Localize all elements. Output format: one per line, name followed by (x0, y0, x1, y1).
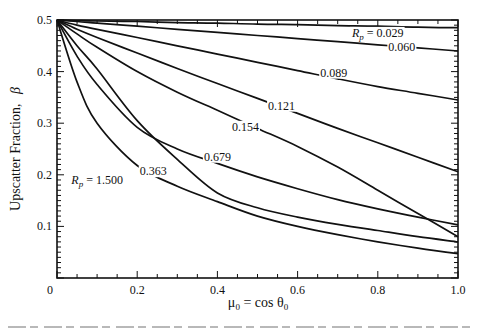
curve-rp-1-500 (57, 20, 458, 254)
y-tick-label: 0.1 (37, 219, 52, 233)
svg-text:0.060: 0.060 (388, 40, 415, 54)
x-tick-label: 0.2 (130, 283, 145, 297)
svg-text:0.154: 0.154 (232, 120, 259, 134)
x-axis-title: μ0 = cos θ0 (228, 295, 289, 312)
curve-label: Rp = 1.500 (69, 173, 124, 189)
y-axis-title: Upscatter Fraction, β (8, 87, 23, 211)
x-axis-title-eq: = cos θ (240, 295, 284, 310)
svg-text:0.121: 0.121 (268, 99, 295, 113)
curve-label: 0.060 (387, 40, 416, 54)
svg-text:0.089: 0.089 (320, 66, 347, 80)
plot-frame (57, 20, 458, 278)
x-tick-label: 0.4 (210, 283, 225, 297)
curve-label: 0.089 (319, 66, 348, 80)
y-tick-label: 0.2 (37, 168, 52, 182)
x-tick-label: 1.0 (451, 283, 466, 297)
x-tick-label: 0.6 (290, 283, 305, 297)
curve-label: 0.679 (203, 150, 232, 164)
y-axis-title-text: Upscatter Fraction, (8, 104, 23, 211)
figure-caption-cropped (8, 324, 473, 329)
x-tick-label: 0.8 (370, 283, 385, 297)
curve-label: 0.121 (267, 99, 296, 113)
svg-text:0.679: 0.679 (204, 150, 231, 164)
y-axis-title-symbol: β (8, 87, 23, 95)
upscatter-fraction-chart: 00.20.40.60.81.00.10.20.30.40.5 Rp = 0.0… (0, 0, 479, 329)
data-curves (57, 20, 458, 254)
curve-label: 0.363 (139, 164, 168, 178)
y-tick-label: 0.5 (37, 13, 52, 27)
tick-labels: 00.20.40.60.81.00.10.20.30.40.5 (37, 13, 466, 297)
x-axis-title-mu: μ (228, 295, 236, 310)
svg-text:0.363: 0.363 (140, 164, 167, 178)
y-tick-label: 0.4 (37, 65, 52, 79)
x-axis-title-sub1: 0 (284, 302, 289, 312)
axis-ticks (57, 20, 458, 278)
curve-label: 0.154 (231, 120, 260, 134)
x-tick-label: 0 (47, 283, 53, 297)
curve-labels: Rp = 0.0290.0600.0890.1210.1540.6790.363… (69, 26, 416, 189)
y-tick-label: 0.3 (37, 116, 52, 130)
svg-text:Rp = 1.500: Rp = 1.500 (70, 173, 123, 189)
